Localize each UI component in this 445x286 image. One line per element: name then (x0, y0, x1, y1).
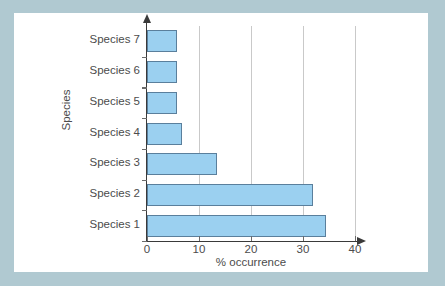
y-axis-line (146, 22, 147, 242)
x-tick-label-0: 0 (132, 243, 162, 255)
bar-row (147, 61, 355, 83)
plot-area (147, 26, 355, 241)
y-axis-tick-labels: Species 1Species 2Species 3Species 4Spec… (52, 0, 140, 286)
y-axis-title: Species (60, 90, 72, 131)
bar-species-6 (147, 61, 177, 83)
y-axis-arrow-icon (143, 14, 151, 23)
bar-species-7 (147, 30, 177, 52)
x-tick-mark-20 (251, 236, 252, 241)
x-tick-label-10: 10 (184, 243, 214, 255)
bar-species-5 (147, 92, 177, 114)
x-tick-label-30: 30 (288, 243, 318, 255)
bar-row (147, 92, 355, 114)
y-tick-mark (142, 87, 147, 88)
gridline-40 (355, 26, 356, 241)
x-tick-label-40: 40 (340, 243, 370, 255)
bar-row (147, 184, 355, 206)
x-axis-title: % occurrence (151, 256, 351, 268)
bar-row (147, 30, 355, 52)
x-tick-mark-0 (147, 236, 148, 241)
y-tick-label-species-6: Species 6 (54, 64, 140, 76)
bar-species-2 (147, 184, 313, 206)
x-axis-line (146, 241, 359, 242)
y-tick-label-species-1: Species 1 (54, 218, 140, 230)
figure-root: Species 1Species 2Species 3Species 4Spec… (0, 0, 445, 286)
x-tick-label-20: 20 (236, 243, 266, 255)
bar-species-3 (147, 153, 217, 175)
y-tick-mark (142, 180, 147, 181)
y-tick-mark (142, 149, 147, 150)
bar-row (147, 123, 355, 145)
y-tick-label-species-3: Species 3 (54, 156, 140, 168)
bar-species-4 (147, 123, 182, 145)
x-tick-mark-40 (355, 236, 356, 241)
x-tick-mark-30 (303, 236, 304, 241)
x-tick-mark-10 (199, 236, 200, 241)
y-tick-mark (142, 210, 147, 211)
bar-row (147, 153, 355, 175)
y-tick-mark (142, 57, 147, 58)
y-tick-label-species-7: Species 7 (54, 33, 140, 45)
y-tick-mark (142, 241, 147, 242)
y-tick-mark (142, 118, 147, 119)
bar-species-1 (147, 215, 326, 237)
y-tick-label-species-2: Species 2 (54, 187, 140, 199)
bar-row (147, 215, 355, 237)
